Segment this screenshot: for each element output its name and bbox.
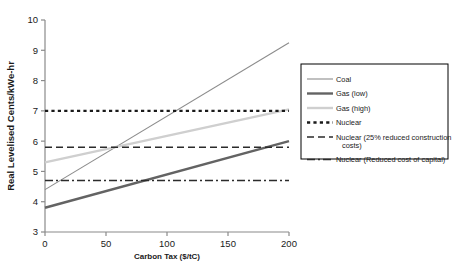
legend-label-0[interactable]: Coal (336, 75, 352, 84)
legend-label-2[interactable]: Gas (high) (336, 104, 371, 113)
y-tick-label: 6 (33, 136, 38, 147)
line-chart: 345678910 050100150200 Real Levelised Ce… (0, 0, 453, 276)
x-tick-label: 150 (220, 238, 236, 249)
legend-label-5[interactable]: Nuclear (Reduced cost of capital) (336, 155, 445, 164)
chart-container: 345678910 050100150200 Real Levelised Ce… (0, 0, 453, 276)
x-tick-label: 50 (101, 238, 112, 249)
y-tick-label: 7 (33, 105, 38, 116)
x-tick-label: 200 (281, 238, 297, 249)
x-axis-title: Carbon Tax ($/tC) (134, 252, 200, 261)
y-tick-label: 9 (33, 45, 38, 56)
y-tick-label: 3 (33, 226, 38, 237)
legend-label-1[interactable]: Gas (low) (336, 89, 368, 98)
legend-box (301, 64, 448, 159)
y-tick-label: 4 (33, 196, 38, 207)
y-tick-label: 5 (33, 166, 38, 177)
x-tick-label: 0 (42, 238, 47, 249)
y-axis-title: Real Levelised Cents/kWe-hr (5, 61, 16, 191)
legend-label-4-line2: costs) (342, 141, 362, 150)
x-tick-label: 100 (159, 238, 175, 249)
legend-label-3[interactable]: Nuclear (336, 118, 362, 127)
y-tick-label: 8 (33, 75, 38, 86)
y-tick-label: 10 (27, 14, 38, 25)
